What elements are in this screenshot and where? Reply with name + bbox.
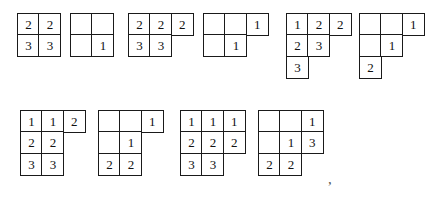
tableau-cell: 1 — [141, 110, 164, 133]
tableau-cell: 1 — [246, 13, 269, 36]
tableau-row: 1 — [98, 131, 162, 152]
tableau-cell: 1 — [41, 110, 64, 133]
tableau-cell-empty — [98, 110, 121, 133]
tableau-cell: 2 — [38, 13, 61, 36]
tableau-5: 122233 — [286, 13, 350, 77]
tableau-row: 122 — [286, 13, 350, 34]
tableau-cell: 1 — [91, 34, 114, 57]
tableau-cell: 1 — [380, 34, 403, 57]
tableau-row: 1 — [203, 13, 267, 34]
tableau-cell: 2 — [171, 13, 194, 36]
tableau-cell: 3 — [128, 34, 151, 57]
tableau-cell: 1 — [119, 131, 142, 154]
tableau-cell-empty — [279, 110, 302, 133]
tableau-row: 1 — [203, 34, 267, 55]
tableau-cell: 2 — [180, 131, 203, 154]
tableau-cell-empty — [70, 13, 93, 36]
tableau-cell: 2 — [307, 13, 330, 36]
tableau-row: 33 — [17, 34, 60, 55]
tableau-row: 33 — [180, 153, 244, 174]
tableau-8: 1122 — [98, 110, 162, 174]
tableau-cell: 2 — [17, 13, 40, 36]
tableau-row: 22 — [258, 153, 322, 174]
tableau-cell: 2 — [41, 131, 64, 154]
young-tableaux-figure: 2233122233111222331121122233112211122233… — [0, 0, 447, 205]
tableau-cell-empty — [224, 13, 247, 36]
tableau-row: 222 — [128, 13, 192, 34]
tableau-row: 1 — [359, 13, 423, 34]
tableau-cell: 1 — [180, 110, 203, 133]
tableau-cell: 3 — [41, 153, 64, 176]
tableau-row: 23 — [286, 34, 350, 55]
tableau-cell: 2 — [149, 13, 172, 36]
tableau-cell: 3 — [201, 153, 224, 176]
tableau-cell-empty — [98, 131, 121, 154]
tableau-cell: 3 — [17, 34, 40, 57]
tableau-6: 112 — [359, 13, 423, 77]
tableau-cell: 3 — [149, 34, 172, 57]
tableau-row: 13 — [258, 131, 322, 152]
tableau-cell: 2 — [98, 153, 121, 176]
tableau-cell-empty — [359, 34, 382, 57]
tableau-cell: 2 — [279, 153, 302, 176]
tableau-row: 111 — [180, 110, 244, 131]
tableau-row: 1 — [70, 34, 113, 55]
tableau-cell-empty — [119, 110, 142, 133]
tableau-cell: 3 — [180, 153, 203, 176]
tableau-cell-empty — [258, 110, 281, 133]
tableau-1: 2233 — [17, 13, 60, 56]
tableau-cell: 1 — [402, 13, 425, 36]
tableau-9: 11122233 — [180, 110, 244, 174]
tableau-cell-empty — [380, 13, 403, 36]
tableau-row — [70, 13, 113, 34]
tableau-cell: 1 — [286, 13, 309, 36]
tableau-cell: 2 — [329, 13, 352, 36]
tableau-row: 22 — [98, 153, 162, 174]
tableau-cell: 2 — [128, 13, 151, 36]
tableau-cell: 2 — [201, 131, 224, 154]
tableau-cell: 2 — [223, 131, 246, 154]
tableau-cell: 1 — [224, 34, 247, 57]
tableau-cell: 1 — [201, 110, 224, 133]
tableau-row: 1 — [98, 110, 162, 131]
tableau-cell: 3 — [286, 56, 309, 79]
tableau-row: 3 — [286, 56, 350, 77]
tableau-row: 1 — [258, 110, 322, 131]
tableau-4: 11 — [203, 13, 267, 56]
tableau-cell: 1 — [223, 110, 246, 133]
tableau-row: 222 — [180, 131, 244, 152]
tableau-cell: 3 — [307, 34, 330, 57]
tableau-row: 33 — [128, 34, 192, 55]
tableau-row: 22 — [20, 131, 84, 152]
tableau-row: 2 — [359, 56, 423, 77]
tableau-cell-empty — [203, 13, 226, 36]
tableau-row: 1 — [359, 34, 423, 55]
tableau-cell: 1 — [279, 131, 302, 154]
tableau-row: 112 — [20, 110, 84, 131]
tableau-cell: 2 — [359, 56, 382, 79]
tableau-cell: 2 — [286, 34, 309, 57]
tableau-3: 22233 — [128, 13, 192, 56]
tableau-cell: 3 — [301, 131, 324, 154]
tableau-cell: 2 — [63, 110, 86, 133]
tableau-cell: 3 — [38, 34, 61, 57]
tableau-cell-empty — [203, 34, 226, 57]
tableau-cell-empty — [359, 13, 382, 36]
tableau-cell: 2 — [258, 153, 281, 176]
tableau-cell: 2 — [20, 131, 43, 154]
tableau-row: 33 — [20, 153, 84, 174]
trailing-comma: , — [328, 172, 332, 187]
tableau-7: 1122233 — [20, 110, 84, 174]
tableau-cell-empty — [70, 34, 93, 57]
tableau-10: 11322 — [258, 110, 322, 174]
tableau-cell: 2 — [119, 153, 142, 176]
tableau-cell: 3 — [20, 153, 43, 176]
tableau-cell: 1 — [301, 110, 324, 133]
tableau-cell: 1 — [20, 110, 43, 133]
tableau-row: 22 — [17, 13, 60, 34]
tableau-cell-empty — [91, 13, 114, 36]
tableau-cell-empty — [258, 131, 281, 154]
tableau-2: 1 — [70, 13, 113, 56]
